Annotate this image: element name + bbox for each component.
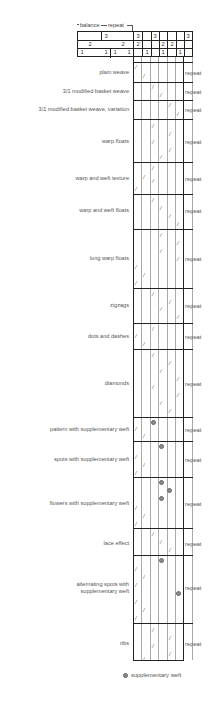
weft-mark: /: [143, 433, 145, 439]
row-label: long warp floats: [90, 255, 129, 262]
weft-mark: /: [135, 615, 137, 621]
legend-label: supplementary weft: [131, 672, 181, 678]
supplementary-weft-dot: [167, 488, 172, 493]
header-num: 1: [102, 49, 110, 56]
weft-mark: /: [177, 376, 179, 382]
row-divider: [133, 119, 193, 120]
header-num: 1: [111, 49, 119, 56]
balance-bracket: [77, 24, 79, 25]
header-num: 1: [159, 49, 167, 56]
weft-mark: /: [135, 280, 137, 286]
weft-mark: /: [143, 462, 145, 468]
repeat-bracket-left: [101, 25, 107, 26]
weft-mark: /: [152, 384, 154, 390]
supplementary-weft-dot: [159, 558, 164, 563]
row-label: zigzags: [110, 302, 129, 309]
row-label: diamonds: [105, 380, 129, 387]
repeat-label: repeat: [185, 176, 201, 182]
header-num: 3: [134, 33, 142, 40]
weft-mark: /: [169, 635, 171, 641]
weft-mark: /: [169, 131, 171, 137]
legend-dot-icon: [123, 673, 128, 678]
repeat-label: repeat: [185, 381, 201, 387]
row-divider: [133, 623, 193, 624]
weft-mark: /: [160, 306, 162, 312]
weft-mark: /: [143, 174, 145, 180]
row-label: warp and weft texture: [76, 175, 129, 182]
weft-mark: /: [135, 582, 137, 588]
weave-pattern-diagram: balance repeat 3 3 3 3 2 2 2 2 2 1 1 1 1…: [0, 0, 216, 712]
row-divider: [133, 417, 193, 418]
weft-mark: /: [152, 291, 154, 297]
repeat-label: repeat: [185, 585, 201, 591]
weft-mark: /: [135, 566, 137, 572]
row-label: warp and weft floats: [79, 207, 129, 214]
weft-mark: /: [152, 139, 154, 145]
weft-mark: /: [169, 651, 171, 657]
weft-mark: /: [160, 232, 162, 238]
row-label: dots and dashes: [88, 333, 129, 340]
supplementary-weft-dot: [159, 496, 164, 501]
weft-mark: /: [152, 123, 154, 129]
weft-mark: /: [160, 539, 162, 545]
repeat-label: repeat: [185, 208, 201, 214]
row-divider: [133, 349, 193, 350]
row-label: lace effect: [104, 540, 129, 547]
row-label: warp floats: [102, 138, 129, 145]
weft-mark: /: [177, 221, 179, 227]
header-num: 3: [184, 33, 192, 40]
header-grid: 3 3 3 3 2 2 2 2 2 1 1 1 1 1 1 1: [77, 31, 193, 57]
weft-mark: /: [135, 426, 137, 432]
header-num: 1: [125, 49, 133, 56]
warp-line: [141, 57, 142, 660]
header-num: 2: [134, 41, 142, 48]
weft-mark: /: [152, 178, 154, 184]
supplementary-weft-dot: [159, 480, 164, 485]
weft-mark: /: [135, 333, 137, 339]
header-num: 2: [119, 41, 127, 48]
repeat-label: repeat: [185, 107, 201, 113]
row-divider: [133, 441, 193, 442]
weft-mark: /: [143, 607, 145, 613]
weft-mark: /: [169, 360, 171, 366]
header-num: 2: [168, 41, 176, 48]
row-divider: [133, 162, 193, 163]
weft-mark: /: [152, 352, 154, 358]
row-divider: [133, 229, 193, 230]
row-divider: [133, 323, 193, 324]
grid-bottom-border: [133, 660, 184, 661]
weft-mark: /: [169, 408, 171, 414]
weft-mark: /: [152, 627, 154, 633]
row-label: plain weave: [99, 69, 129, 76]
weft-mark: /: [177, 392, 179, 398]
weft-mark: /: [169, 147, 171, 153]
row-label: 3/1 modified basket weave, variation: [39, 106, 129, 113]
header-num: 3: [151, 33, 159, 40]
weft-mark: /: [135, 454, 137, 460]
repeat-label: repeat: [185, 89, 201, 95]
row-label: pattern with supplementary weft: [50, 426, 129, 433]
repeat-label: repeat: [185, 641, 201, 647]
row-divider: [133, 477, 193, 478]
row-divider: [133, 194, 193, 195]
warp-line: [158, 57, 159, 660]
header-num: 1: [176, 49, 184, 56]
row-label: alternating spots with: [76, 581, 129, 588]
weft-mark: /: [135, 505, 137, 511]
weft-mark: /: [169, 547, 171, 553]
repeat-header-label: repeat: [108, 22, 124, 28]
weft-mark: /: [135, 599, 137, 605]
row-label: 3/1 modified basket weave: [63, 88, 129, 95]
repeat-label: repeat: [185, 70, 201, 76]
weft-mark: /: [152, 326, 154, 332]
row-divider: [133, 288, 193, 289]
header-num: 2: [86, 41, 94, 48]
row-label: spots with supplementary weft: [54, 456, 129, 463]
repeat-label: repeat: [185, 334, 201, 340]
header-num: 3: [102, 33, 110, 40]
weft-mark: /: [169, 213, 171, 219]
weft-mark: /: [169, 102, 171, 108]
warp-line: [150, 57, 151, 660]
row-divider: [133, 100, 193, 101]
header-num: 1: [78, 49, 86, 56]
